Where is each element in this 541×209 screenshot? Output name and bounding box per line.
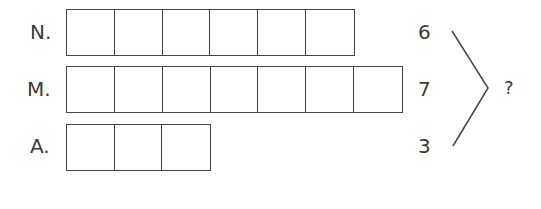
result-question-mark: ? — [504, 77, 514, 98]
sum-bracket-icon — [0, 0, 541, 209]
